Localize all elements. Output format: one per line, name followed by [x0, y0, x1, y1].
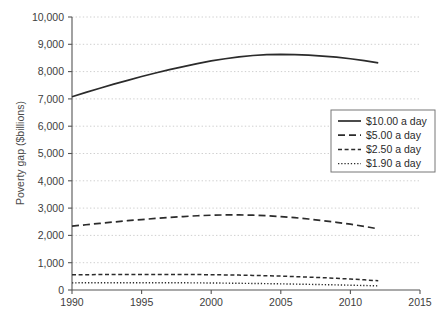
series-line [72, 274, 378, 280]
x-tick-label: 1990 [60, 296, 84, 308]
y-tick-label: 4,000 [38, 175, 64, 187]
y-tick-label: 8,000 [38, 65, 64, 77]
chart-legend: $10.00 a day$5.00 a day$2.50 a day$1.90 … [331, 110, 435, 172]
x-tick-label: 2000 [200, 296, 224, 308]
x-tick-label: 1995 [130, 296, 154, 308]
y-tick-label: 5,000 [38, 147, 64, 159]
y-tick-label: 0 [58, 284, 64, 296]
legend-label: $1.90 a day [366, 157, 422, 169]
legend-label: $2.50 a day [366, 143, 422, 155]
poverty-gap-line-chart: Poverty gap ($billions) 01,0002,0003,000… [0, 0, 437, 320]
y-tick-label: 3,000 [38, 202, 64, 214]
x-axis-ticks: 199019952000200520102015 [60, 290, 432, 308]
chart-plot-area: 01,0002,0003,0004,0005,0006,0007,0008,00… [0, 0, 437, 320]
y-tick-label: 6,000 [38, 120, 64, 132]
y-tick-label: 1,000 [38, 257, 64, 269]
x-tick-label: 2015 [408, 296, 432, 308]
y-tick-label: 2,000 [38, 229, 64, 241]
y-tick-label: 9,000 [38, 38, 64, 50]
y-tick-label: 10,000 [32, 11, 64, 23]
y-axis-ticks: 01,0002,0003,0004,0005,0006,0007,0008,00… [32, 11, 72, 296]
y-tick-label: 7,000 [38, 93, 64, 105]
legend-label: $10.00 a day [366, 115, 427, 127]
legend-label: $5.00 a day [366, 129, 422, 141]
series-line [72, 215, 378, 229]
x-tick-label: 2005 [269, 296, 293, 308]
series-line [72, 283, 378, 286]
x-tick-label: 2010 [339, 296, 363, 308]
series-line [72, 54, 378, 96]
